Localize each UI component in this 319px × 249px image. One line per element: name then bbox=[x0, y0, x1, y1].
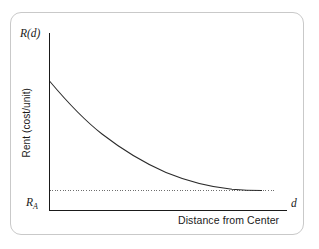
rent-decay-curve bbox=[50, 81, 263, 191]
x-axis-variable-label: d bbox=[291, 198, 297, 210]
y-axis-title: Rent (cost/unit) bbox=[22, 19, 32, 88]
asymptote-level-subscript: A bbox=[33, 202, 38, 211]
figure-root: R(d) Rent (cost/unit) RA Distance from C… bbox=[0, 0, 319, 249]
x-axis-title: Distance from Center bbox=[178, 215, 279, 226]
asymptote-level-symbol: R bbox=[26, 196, 33, 208]
y-axis-title-text: Rent (cost/unit) bbox=[22, 88, 32, 157]
rent-gradient-plot bbox=[0, 0, 319, 249]
asymptote-level-label: RA bbox=[26, 197, 38, 211]
